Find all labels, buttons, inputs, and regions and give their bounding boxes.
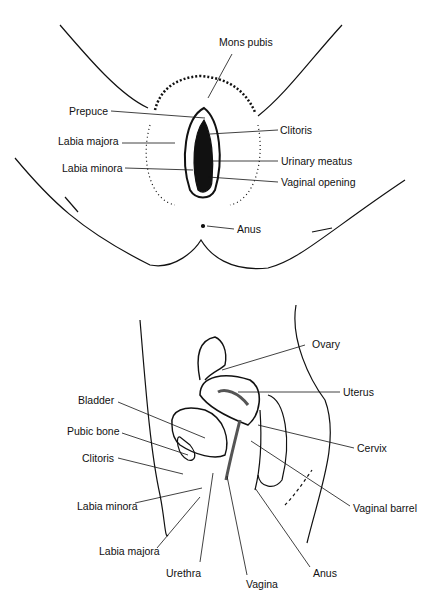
- label-uterus: Uterus: [343, 386, 374, 398]
- label-anus-external: Anus: [237, 223, 261, 235]
- label-vagina: Vagina: [246, 578, 278, 590]
- label-urethra: Urethra: [166, 567, 201, 579]
- label-mons-pubis: Mons pubis: [219, 36, 273, 48]
- label-vaginal-barrel: Vaginal barrel: [353, 502, 417, 514]
- label-anus-section: Anus: [313, 567, 337, 579]
- label-ovary: Ovary: [312, 338, 340, 350]
- label-prepuce: Prepuce: [69, 105, 108, 117]
- label-labia-minora-external: Labia minora: [62, 162, 123, 174]
- label-clitoris-external: Clitoris: [280, 124, 312, 136]
- label-urinary-meatus: Urinary meatus: [281, 155, 352, 167]
- label-bladder: Bladder: [78, 394, 114, 406]
- label-vaginal-opening: Vaginal opening: [281, 176, 356, 188]
- label-cervix: Cervix: [357, 442, 387, 454]
- label-labia-majora-external: Labia majora: [58, 135, 119, 147]
- label-clitoris-section: Clitoris: [82, 452, 114, 464]
- label-labia-minora-section: Labia minora: [77, 500, 138, 512]
- label-labia-majora-section: Labia majora: [99, 545, 160, 557]
- label-pubic-bone: Pubic bone: [67, 425, 120, 437]
